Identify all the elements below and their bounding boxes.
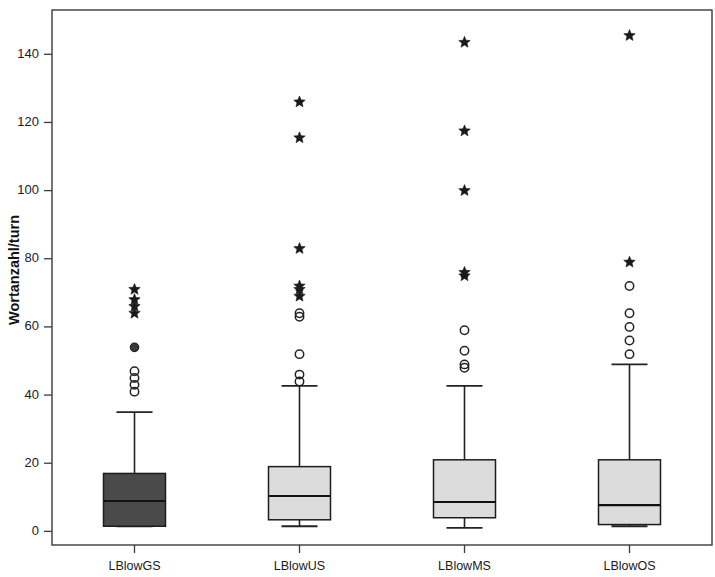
outlier-star (294, 243, 305, 254)
outlier-star (129, 283, 140, 294)
box-plot-LBlowGS (104, 283, 166, 526)
y-axis-title: Wortanzahl/turn (6, 215, 22, 325)
box-iqr (104, 473, 166, 526)
outlier-star (624, 256, 635, 267)
outlier-circle (625, 323, 633, 331)
x-tick-label-LBlowOS: LBlowOS (603, 559, 655, 573)
outlier-circle (625, 336, 633, 344)
y-axis-ticks: 020406080100120140 (17, 46, 52, 538)
boxplot-svg: 020406080100120140 Wortanzahl/turn LBlow… (0, 0, 715, 577)
box-plot-LBlowMS (434, 36, 496, 528)
x-tick-label-LBlowGS: LBlowGS (108, 559, 160, 573)
outlier-circle (625, 350, 633, 358)
outlier-star (294, 132, 305, 143)
outlier-circle (625, 282, 633, 290)
x-axis-labels: LBlowGSLBlowUSLBlowMSLBlowOS (108, 545, 655, 573)
box-iqr (269, 467, 331, 520)
box-plot-LBlowUS (269, 96, 331, 526)
outlier-star (294, 96, 305, 107)
box-plot-LBlowOS (599, 30, 661, 527)
y-tick-label: 100 (17, 182, 39, 197)
outlier-circle (625, 309, 633, 317)
box-series-group (104, 30, 661, 528)
y-tick-label: 0 (32, 523, 39, 538)
y-axis-title-text: Wortanzahl/turn (6, 215, 22, 325)
outlier-star (459, 36, 470, 47)
outlier-circle (460, 347, 468, 355)
box-iqr (434, 460, 496, 518)
y-tick-label: 40 (25, 387, 39, 402)
outlier-circle (130, 343, 138, 351)
box-iqr (599, 460, 661, 525)
outlier-star (459, 125, 470, 136)
outlier-star (459, 185, 470, 196)
x-tick-label-LBlowMS: LBlowMS (438, 559, 491, 573)
outlier-circle (295, 350, 303, 358)
y-tick-label: 20 (25, 455, 39, 470)
outlier-star (624, 30, 635, 41)
x-tick-label-LBlowUS: LBlowUS (274, 559, 325, 573)
boxplot-chart: 020406080100120140 Wortanzahl/turn LBlow… (0, 0, 715, 577)
y-tick-label: 140 (17, 46, 39, 61)
outlier-circle (460, 326, 468, 334)
y-tick-label: 60 (25, 318, 39, 333)
y-tick-label: 120 (17, 114, 39, 129)
y-tick-label: 80 (25, 250, 39, 265)
